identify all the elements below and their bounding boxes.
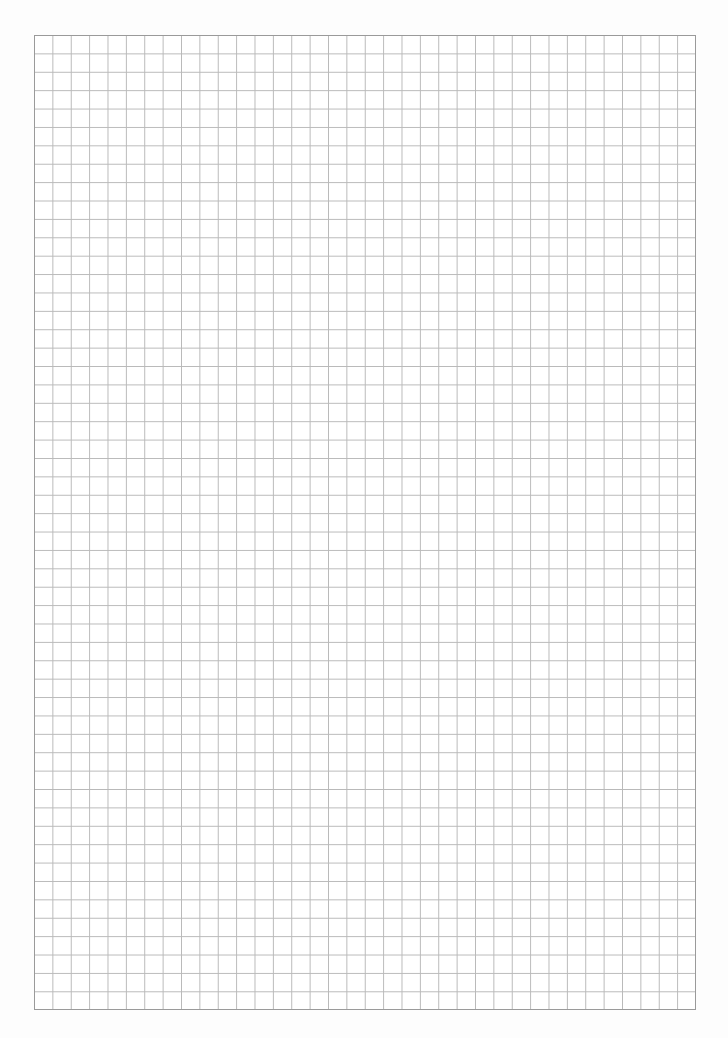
- paper-sheet: [0, 0, 728, 1038]
- square-grid: [34, 35, 696, 1010]
